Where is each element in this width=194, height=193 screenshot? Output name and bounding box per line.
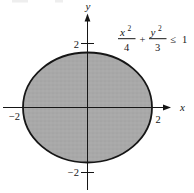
formula-numerator1-exponent: 2 xyxy=(128,24,132,33)
formula-rhs: 1 xyxy=(182,34,187,45)
formula-plus-sign: + xyxy=(140,34,146,45)
inequality-graph: y x 2 −2 −2 2 x 2 4 + y 2 3 ≤ 1 xyxy=(0,0,194,193)
y-tick-label-2: 2 xyxy=(74,39,79,50)
x-axis-arrowhead-icon xyxy=(163,105,171,111)
x-tick-label-2: 2 xyxy=(155,114,160,125)
inequality-figure: y x 2 −2 −2 2 x 2 4 + y 2 3 ≤ 1 xyxy=(0,0,194,193)
x-tick-label-neg2: −2 xyxy=(9,111,20,122)
formula-numerator2-variable: y xyxy=(150,26,156,38)
y-tick-label-neg2: −2 xyxy=(68,167,79,178)
formula-leq-sign: ≤ xyxy=(171,34,177,45)
y-axis-arrowhead-icon xyxy=(85,14,91,22)
formula-numerator2-exponent: 2 xyxy=(158,24,162,33)
print-artifact xyxy=(12,0,28,3)
x-axis-label: x xyxy=(179,101,185,113)
inequality-formula: x 2 4 + y 2 3 ≤ 1 xyxy=(118,24,187,53)
formula-denominator1: 4 xyxy=(124,42,130,53)
y-axis-label: y xyxy=(85,0,91,12)
formula-denominator2: 3 xyxy=(155,42,160,53)
formula-numerator1-variable: x xyxy=(119,26,125,38)
print-artifact xyxy=(55,0,63,3)
